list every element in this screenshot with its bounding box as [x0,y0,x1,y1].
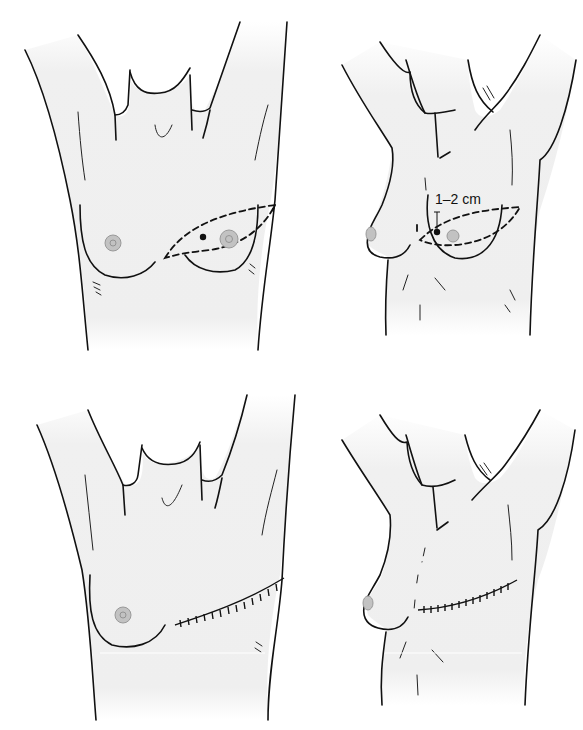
nipple [115,607,131,623]
panel-oblique-preop: 1–2 cm [300,0,583,365]
left-nipple [105,235,121,251]
far-nipple [447,230,459,242]
panel-frontal-postop [0,370,300,730]
torso-frontal-preop-drawing [0,0,300,365]
torso-oblique-preop-drawing: 1–2 cm [300,0,583,365]
right-nipple [220,230,238,248]
lesion-dot [434,229,440,235]
near-nipple [363,596,373,610]
lesion-dot [200,234,206,240]
panel-frontal-preop [0,0,300,365]
panel-oblique-postop [300,370,583,730]
torso-frontal-postop-drawing [0,370,300,730]
margin-label: 1–2 cm [435,191,481,207]
torso-oblique-postop-drawing [300,370,583,730]
near-nipple [366,227,376,241]
